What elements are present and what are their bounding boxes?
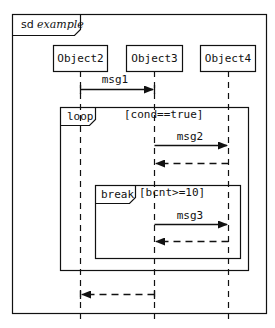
message-label: msg3	[177, 209, 204, 222]
message-label: msg2	[177, 130, 204, 143]
fragment-operator: break	[101, 188, 134, 201]
object-label: Object3	[131, 52, 177, 65]
message-msg1[interactable]: msg1	[81, 73, 155, 94]
sd-frame-name: example	[37, 18, 84, 31]
sequence-diagram: sd example Object2 Object3 Object4 msg1 …	[0, 0, 275, 328]
message-label: msg1	[102, 73, 129, 86]
object-object3[interactable]: Object3	[127, 46, 183, 72]
return-msg1[interactable]	[81, 290, 155, 299]
fragment-guard: [bcnt>=10]	[139, 186, 205, 199]
object-label: Object2	[57, 52, 103, 65]
fragment-operator: loop	[67, 110, 94, 123]
fragment-break: break [bcnt>=10]	[96, 186, 241, 259]
object-label: Object4	[205, 52, 252, 65]
sd-frame-keyword: sd	[21, 18, 34, 31]
message-msg3[interactable]: msg3	[155, 209, 228, 225]
object-object4[interactable]: Object4	[201, 46, 256, 72]
message-msg2[interactable]: msg2	[155, 130, 228, 146]
fragment-guard: [cond==true]	[124, 108, 203, 121]
object-object2[interactable]: Object2	[54, 46, 108, 72]
